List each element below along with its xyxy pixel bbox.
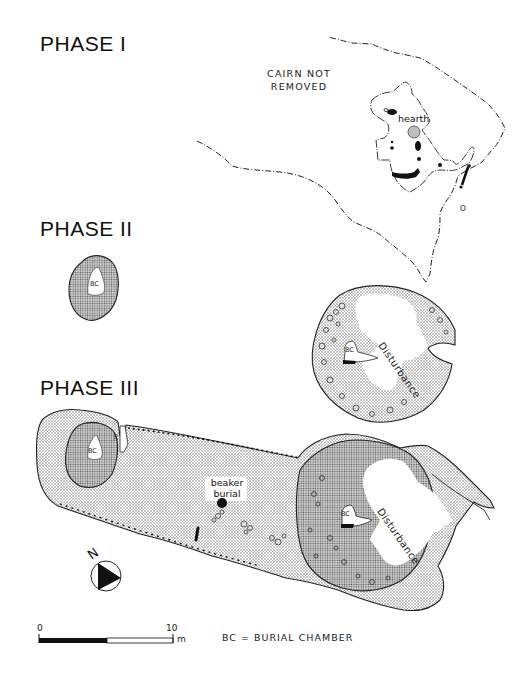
beaker-burial-label: beaker burial [207, 477, 247, 499]
beaker-burial-pit [217, 498, 227, 508]
scale-bar-white [107, 638, 173, 643]
scale-unit-label: m [177, 634, 186, 644]
wall-slot [462, 167, 468, 185]
phase-2-title: PHASE II [40, 217, 133, 241]
phase-1-title: PHASE I [40, 32, 126, 56]
posthole [438, 163, 442, 167]
posthole [387, 109, 397, 115]
posthole [391, 141, 393, 143]
phase-3-title: PHASE III [40, 376, 139, 400]
hearth-feature [408, 126, 420, 138]
scale-end-label: 10 [166, 623, 177, 633]
cairn-outline [197, 37, 505, 282]
beaker-line1: beaker [207, 477, 247, 488]
scale-start-label: 0 [37, 623, 43, 633]
cairn-note-line1: CAIRN NOT [254, 67, 344, 80]
posthole [415, 141, 421, 151]
phase-3-east-chamber-stone [341, 524, 354, 528]
phase-3a-bc-label: BC [345, 346, 354, 354]
phase-3-west-bc-label: BC [88, 447, 97, 455]
phase-3-side-bc-label: BC [113, 434, 119, 441]
scale-bar-black [39, 638, 107, 643]
posthole [467, 164, 471, 168]
posthole [459, 185, 462, 188]
hearth-label: hearth [398, 113, 429, 124]
site-plan-canvas [0, 0, 525, 676]
wall-slot [392, 168, 420, 179]
posthole [417, 157, 421, 161]
posthole [390, 146, 394, 150]
cairn-note-line2: REMOVED [254, 80, 344, 93]
stone [461, 205, 465, 211]
posthole [384, 109, 388, 112]
phase-1-plan [197, 37, 505, 282]
phase-3-east-bc-label: BC [341, 510, 350, 518]
phase-2-bc-label: BC [90, 280, 99, 288]
posthole-line [196, 528, 198, 540]
cairn-not-removed-label: CAIRN NOT REMOVED [254, 67, 344, 93]
legend-bc: BC = BURIAL CHAMBER [222, 632, 353, 643]
scale-bar [39, 634, 173, 643]
north-arrow [91, 561, 121, 591]
beaker-line2: burial [207, 488, 247, 499]
